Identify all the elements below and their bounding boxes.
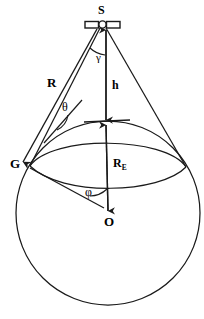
label-earth-centre-O: O [104,215,114,228]
label-altitude-h: h [112,79,119,91]
phi-arc [90,189,107,196]
label-slant-range-R: R [47,76,56,89]
slant-range-vector-R [23,29,97,162]
label-nadir-angle-gamma: γ [96,52,101,63]
label-elevation-angle-theta: θ [62,101,68,113]
label-earth-radius-sub: E [122,163,127,172]
satellite-bus-icon [99,21,106,28]
label-earth-radius-main: R [113,156,122,170]
solar-panel-right-icon [107,22,121,29]
satellite-icon [85,21,120,28]
label-satellite-S: S [98,4,105,16]
label-ground-point-G: G [10,157,20,170]
earth-sphere [16,121,200,305]
field-of-view-cone [30,28,186,167]
earth-radius-dimension-RE [106,125,108,211]
solar-panel-left-icon [85,22,99,29]
geometry-drawing [0,0,204,319]
label-geocentric-angle-phi: φ [85,186,92,198]
satellite-earth-geometry-diagram: S γ R θ h G RE φ O [0,0,204,319]
label-earth-radius-RE: RE [113,157,127,172]
visible-cap-arcs [30,143,186,188]
